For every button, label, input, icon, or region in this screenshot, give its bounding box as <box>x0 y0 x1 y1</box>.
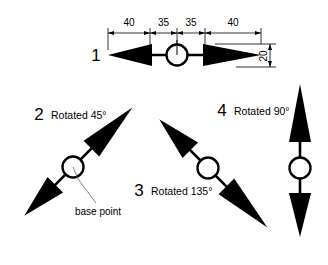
diagram-canvas: 40 35 35 40 20 1 <box>0 0 328 265</box>
symbol-3-number: 3 <box>134 181 143 200</box>
symbol-1-number: 1 <box>91 46 100 65</box>
dimension-label-20: 20 <box>258 50 269 62</box>
base-point-leader-outer <box>78 179 96 203</box>
symbol-2-group: base point 2 Rotated 45° <box>16 100 140 224</box>
symbol-4-group: 4 Rotated 90° <box>217 84 311 237</box>
symbol-2-rotation-label: Rotated 45° <box>51 109 107 121</box>
dimension-line-horizontal <box>108 31 261 35</box>
symbol-2-number: 2 <box>34 105 43 124</box>
symbol-4-number: 4 <box>217 101 226 120</box>
symbol-3-arrow <box>151 111 275 235</box>
symbol-4-rotation-label: Rotated 90° <box>234 105 290 117</box>
symbol-4-arrow <box>289 84 311 237</box>
dimension-label-40-left: 40 <box>123 17 135 28</box>
symbol-4-base-point-circle <box>290 158 311 179</box>
base-point-label: base point <box>75 206 121 217</box>
dimension-label-40-right: 40 <box>227 17 239 28</box>
dimension-label-35-left: 35 <box>158 17 170 28</box>
symbol-3-rotation-label: Rotated 135° <box>151 185 212 197</box>
symbol-1-group: 40 35 35 40 20 1 <box>91 17 276 67</box>
symbol-3-group: 3 Rotated 135° <box>134 111 275 235</box>
dimension-label-35-right: 35 <box>185 17 197 28</box>
